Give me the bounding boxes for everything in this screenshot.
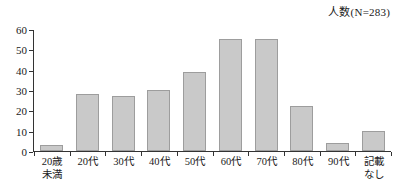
y-tick-mark <box>29 71 33 72</box>
bars-group <box>34 30 391 151</box>
y-tick-label: 20 <box>16 106 27 117</box>
bar[interactable] <box>290 106 313 151</box>
bar[interactable] <box>326 143 349 151</box>
bar[interactable] <box>147 90 170 151</box>
y-tick-mark <box>29 132 33 133</box>
bar-slot <box>320 30 356 151</box>
y-tick-mark <box>29 30 33 31</box>
bar-chart: 人数(N=283) 0102030405060 20歳 未満20代30代40代5… <box>0 0 398 190</box>
y-tick-label: 0 <box>22 147 28 158</box>
bar-slot <box>70 30 106 151</box>
y-tick-mark <box>29 111 33 112</box>
bar[interactable] <box>219 39 242 151</box>
x-tick-label: 30代 <box>106 155 142 181</box>
x-tick-label: 70代 <box>249 155 285 181</box>
bar-slot <box>213 30 249 151</box>
bar-slot <box>355 30 391 151</box>
bar[interactable] <box>112 96 135 151</box>
bar-slot <box>105 30 141 151</box>
y-tick-label: 30 <box>16 86 27 97</box>
x-tick-label: 60代 <box>213 155 249 181</box>
bar-slot <box>177 30 213 151</box>
bar-slot <box>248 30 284 151</box>
y-tick-label: 50 <box>16 45 27 56</box>
y-tick-label: 40 <box>16 65 27 76</box>
bar[interactable] <box>183 72 206 151</box>
x-tick-label: 50代 <box>177 155 213 181</box>
x-axis-labels: 20歳 未満20代30代40代50代60代70代80代90代記載 なし <box>34 155 392 181</box>
bar[interactable] <box>362 131 385 151</box>
x-tick-label: 40代 <box>141 155 177 181</box>
y-tick-mark <box>29 152 33 153</box>
bar-slot <box>34 30 70 151</box>
x-tick-label: 90代 <box>320 155 356 181</box>
x-tick-label: 記載 なし <box>356 155 392 181</box>
bar-slot <box>284 30 320 151</box>
bar[interactable] <box>255 39 278 151</box>
y-tick-label: 10 <box>16 126 27 137</box>
y-tick-label: 60 <box>16 25 27 36</box>
y-tick-mark <box>29 91 33 92</box>
bar[interactable] <box>76 94 99 151</box>
bar-slot <box>141 30 177 151</box>
chart-title: 人数(N=283) <box>328 7 390 18</box>
y-tick-mark <box>29 50 33 51</box>
plot-area: 0102030405060 <box>33 30 391 152</box>
x-tick-label: 20歳 未満 <box>34 155 70 181</box>
x-tick-label: 20代 <box>70 155 106 181</box>
bar[interactable] <box>40 145 63 151</box>
x-tick-label: 80代 <box>285 155 321 181</box>
